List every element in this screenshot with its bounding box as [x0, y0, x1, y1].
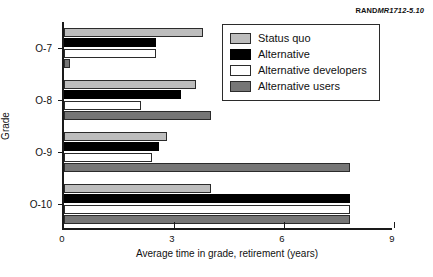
bar-o-7-alternative	[64, 38, 156, 47]
x-axis-label-3: 3	[169, 233, 174, 244]
x-axis-label-0: 0	[59, 233, 64, 244]
rand-source-tag: RANDMR1712-5.10	[355, 6, 424, 15]
legend-label-altusers: Alternative users	[258, 80, 340, 92]
bar-o-9-alternative	[64, 142, 159, 151]
y-axis-label-o-9: O-9	[0, 147, 52, 158]
bar-o-9-status-quo	[64, 132, 167, 141]
bar-o-7-alternative-users	[64, 59, 70, 68]
bar-o-10-alternative-developers	[64, 205, 350, 214]
legend-label-alternative: Alternative	[258, 48, 310, 60]
legend-label-altdev: Alternative developers	[258, 64, 367, 76]
bar-o-10-alternative	[64, 194, 350, 203]
y-axis-label-o-10: O-10	[0, 199, 52, 210]
y-tick-o-8	[58, 100, 64, 101]
x-tick-3	[174, 222, 175, 228]
bar-o-7-status-quo	[64, 28, 203, 37]
legend-item-altdev: Alternative developers	[230, 62, 372, 78]
x-axis-title: Average time in grade, retirement (years…	[62, 248, 392, 259]
bar-o-8-status-quo	[64, 80, 196, 89]
bar-o-9-alternative-users	[64, 163, 350, 172]
bar-o-10-alternative-users	[64, 215, 350, 224]
bar-o-7-alternative-developers	[64, 49, 156, 58]
chart-legend: Status quoAlternativeAlternative develop…	[222, 24, 380, 101]
x-tick-6	[284, 222, 285, 228]
y-axis-label-o-8: O-8	[0, 95, 52, 106]
y-axis-label-o-7: O-7	[0, 43, 52, 54]
legend-label-statusquo: Status quo	[258, 32, 311, 44]
legend-swatch-statusquo	[230, 33, 251, 44]
y-tick-o-10	[58, 204, 64, 205]
legend-item-statusquo: Status quo	[230, 30, 372, 46]
rand-document-number: MR1712-5.10	[377, 6, 424, 15]
bar-o-9-alternative-developers	[64, 153, 152, 162]
bar-o-10-status-quo	[64, 184, 211, 193]
x-axis-label-9: 9	[389, 233, 394, 244]
bar-o-8-alternative	[64, 90, 181, 99]
rand-logo-text: RAND	[355, 6, 377, 15]
y-axis-title: Grade	[0, 112, 11, 140]
legend-swatch-altusers	[230, 81, 251, 92]
y-tick-o-9	[58, 152, 64, 153]
bar-o-8-alternative-users	[64, 111, 211, 120]
x-tick-9	[394, 222, 395, 228]
legend-swatch-altdev	[230, 65, 251, 76]
legend-item-altusers: Alternative users	[230, 78, 372, 94]
chart-figure: RANDMR1712-5.10 Grade Average time in gr…	[0, 0, 433, 277]
legend-item-alternative: Alternative	[230, 46, 372, 62]
y-tick-o-7	[58, 48, 64, 49]
legend-swatch-alternative	[230, 49, 251, 60]
x-axis-label-6: 6	[279, 233, 284, 244]
bar-o-8-alternative-developers	[64, 101, 141, 110]
